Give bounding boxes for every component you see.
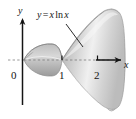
equation-variable-x2: x [64,9,69,20]
curve-equation-label: y=xlnx [37,10,69,20]
equation-lhs: y [37,9,42,20]
y-axis-label: y [18,6,22,16]
x-tick-label-2: 2 [94,70,100,81]
figure-solid-of-revolution: y x 0 1 2 y=xlnx [0,0,136,119]
cone-upper-surface [62,9,125,109]
x-tick-label-1: 1 [59,70,65,81]
equation-ln-operator: ln [54,9,64,20]
x-axis-label: x [124,60,128,70]
origin-label: 0 [11,70,17,81]
